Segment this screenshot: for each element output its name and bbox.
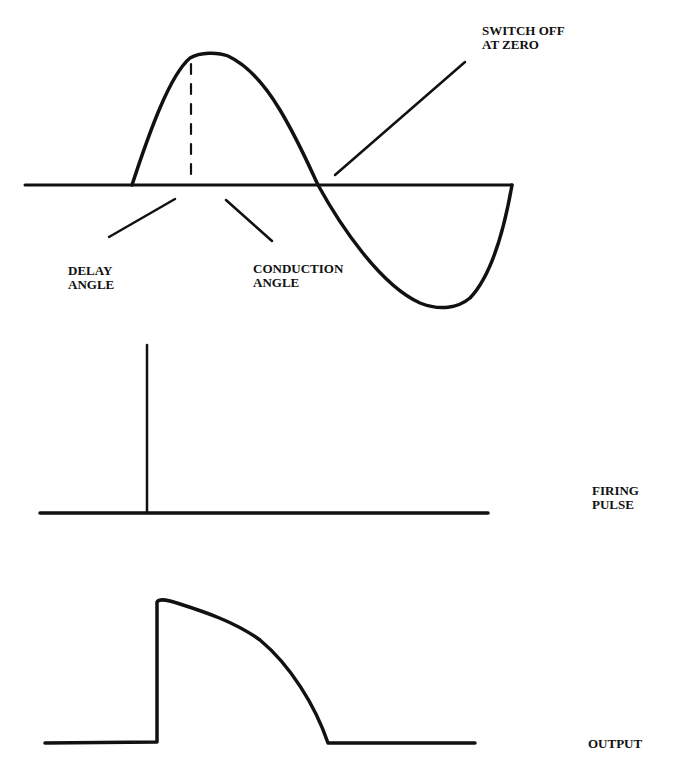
output-label-line1: OUTPUT [588,737,642,751]
switch-off-label-line1: SWITCH OFF [482,24,565,38]
output-label: OUTPUT [588,737,642,751]
conduction-angle-label: CONDUCTION ANGLE [253,262,343,290]
conduction-angle-label-line2: ANGLE [253,276,343,290]
switch-off-pointer [335,62,465,175]
delay-angle-label-line1: DELAY [68,264,114,278]
switch-off-label-line2: AT ZERO [482,38,565,52]
firing-pulse-label-line2: PULSE [592,498,639,512]
delay-angle-label: DELAY ANGLE [68,264,114,292]
firing-pulse-label: FIRING PULSE [592,484,639,512]
conduction-angle-pointer [226,200,272,241]
switch-off-label: SWITCH OFF AT ZERO [482,24,565,52]
waveform-diagram [0,0,688,780]
firing-pulse-label-line1: FIRING [592,484,639,498]
delay-angle-label-line2: ANGLE [68,278,114,292]
conduction-angle-label-line1: CONDUCTION [253,262,343,276]
delay-angle-pointer [109,199,175,237]
output-waveform [45,600,475,743]
